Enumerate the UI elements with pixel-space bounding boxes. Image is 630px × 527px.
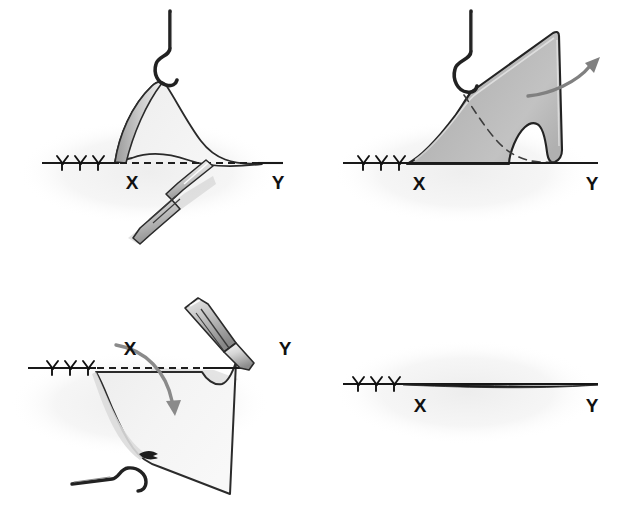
label-x: X [413,173,426,194]
panel-flap-transposed: X Y [0,264,315,527]
skin-hook [454,11,477,92]
label-x: X [124,338,137,359]
skin-hook [155,11,177,86]
skin-hook [72,468,146,491]
label-y: Y [586,395,599,416]
scalpel-handle [185,298,236,352]
label-x: X [126,172,139,193]
background-halo [335,340,599,444]
label-x: X [414,395,427,416]
label-y: Y [272,172,285,193]
panel-1-canvas: X Y [0,0,315,264]
panel-flap-undermining: X Y [0,0,315,264]
panel-closed-wound: X Y [315,264,630,527]
panel-flap-elevated: X Y [315,0,630,264]
label-y: Y [279,338,292,359]
panel-2-canvas: X Y [315,0,630,264]
label-y: Y [586,173,599,194]
figure-root: X Y [0,0,630,527]
panel-3-canvas: X Y [0,264,315,527]
panel-4-canvas: X Y [315,264,630,527]
